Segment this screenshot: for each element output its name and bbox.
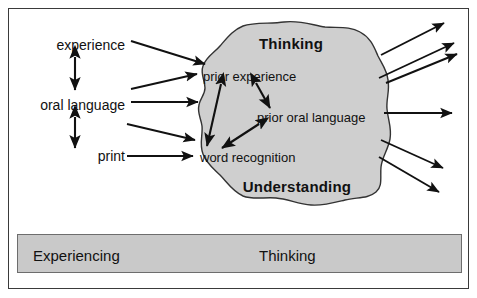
figure-root: experience oral language print Thinking … xyxy=(0,0,477,298)
bottom-phase-bar: Experiencing Thinking xyxy=(17,234,462,273)
input-label-experience: experience xyxy=(0,37,125,53)
blob-title-thinking: Thinking xyxy=(259,35,323,52)
input-label-print: print xyxy=(0,148,125,164)
input-label-oral-language: oral language xyxy=(0,97,125,113)
outgoing-arrows xyxy=(379,23,457,192)
bar-label-experiencing: Experiencing xyxy=(33,247,120,264)
blob-title-understanding: Understanding xyxy=(243,178,351,195)
arrow-oral-language-to-prior-experience xyxy=(131,74,197,89)
arrow-outgoing-1 xyxy=(381,23,444,55)
bar-label-thinking: Thinking xyxy=(259,247,316,264)
arrow-experience-to-prior-experience xyxy=(131,41,205,64)
blob-term-word-recognition: word recognition xyxy=(200,150,295,165)
incoming-arrows xyxy=(127,41,205,156)
blob-term-prior-oral-language: prior oral language xyxy=(257,110,365,125)
blob-term-prior-experience: prior experience xyxy=(203,69,296,84)
arrow-print-to-blob xyxy=(127,124,195,140)
